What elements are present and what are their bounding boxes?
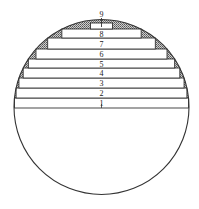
layer-label-7: 7 <box>100 40 104 49</box>
layer-label-6: 6 <box>100 50 104 59</box>
layer-label-8: 8 <box>100 30 104 39</box>
layer-label-5: 5 <box>100 60 104 69</box>
layer-label-3: 3 <box>100 79 104 88</box>
layer-label-4: 4 <box>100 69 104 78</box>
layer-label-9: 9 <box>100 10 104 19</box>
layer-label-2: 2 <box>100 89 104 98</box>
circle-slab-diagram: 123456789 <box>0 0 199 209</box>
